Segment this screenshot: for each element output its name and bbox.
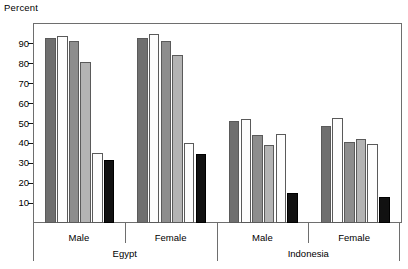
bar bbox=[287, 193, 298, 223]
y-axis-tick-label: 20 bbox=[18, 178, 29, 188]
plot-area bbox=[34, 24, 401, 223]
x-axis-group-label: Female bbox=[126, 232, 216, 243]
y-axis-tick-label: 10 bbox=[18, 198, 29, 208]
bar bbox=[69, 41, 80, 223]
bar bbox=[104, 160, 115, 223]
x-axis-country-separator bbox=[217, 223, 218, 261]
y-axis-title: Percent bbox=[4, 2, 38, 13]
x-axis-country-label: Egypt bbox=[34, 248, 216, 259]
x-axis-group-label: Male bbox=[218, 232, 308, 243]
bar bbox=[252, 135, 263, 223]
bar bbox=[344, 142, 355, 223]
y-axis-tick-label: 30 bbox=[18, 158, 29, 168]
bar bbox=[276, 134, 287, 223]
bar-chart-figure: Percent 102030405060708090 MaleFemaleMal… bbox=[0, 0, 408, 269]
x-axis-group-separator bbox=[125, 223, 126, 243]
x-axis-group-label: Male bbox=[34, 232, 124, 243]
bar bbox=[161, 41, 172, 223]
bar bbox=[80, 62, 91, 223]
bar bbox=[367, 144, 378, 223]
bar bbox=[229, 121, 240, 223]
bar bbox=[321, 126, 332, 224]
y-axis-tick-label: 70 bbox=[18, 79, 29, 89]
bar bbox=[149, 34, 160, 223]
x-axis-country-label: Indonesia bbox=[218, 248, 400, 259]
x-axis-group-label: Female bbox=[309, 232, 399, 243]
bar bbox=[196, 154, 207, 223]
bar bbox=[241, 119, 252, 223]
bar bbox=[379, 197, 390, 223]
bar bbox=[184, 143, 195, 223]
x-axis-country-separator bbox=[399, 223, 400, 261]
x-axis-country-separator bbox=[33, 223, 34, 261]
y-axis-tick-label: 60 bbox=[18, 99, 29, 109]
bar bbox=[45, 38, 56, 223]
bar bbox=[137, 38, 148, 223]
bar bbox=[264, 145, 275, 223]
bar bbox=[172, 55, 183, 223]
bar bbox=[332, 118, 343, 223]
bar bbox=[92, 153, 103, 223]
bar bbox=[356, 139, 367, 223]
y-axis-tick-label: 80 bbox=[18, 59, 29, 69]
x-axis: MaleFemaleMaleFemaleEgyptIndonesia bbox=[33, 223, 402, 269]
y-axis-tick-label: 90 bbox=[18, 39, 29, 49]
y-axis-tick-label: 50 bbox=[18, 119, 29, 129]
y-axis-tick-label: 40 bbox=[18, 138, 29, 148]
bar bbox=[57, 36, 68, 223]
x-axis-group-separator bbox=[308, 223, 309, 243]
